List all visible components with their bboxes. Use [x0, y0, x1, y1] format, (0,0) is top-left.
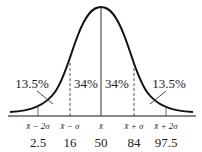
axis-value-16: 16	[64, 135, 78, 150]
axis-symbol-mean: x̄	[98, 121, 104, 131]
axis-value-97-5: 97.5	[155, 135, 178, 150]
axis-value-50: 50	[95, 135, 108, 150]
left-center-label: 34%	[74, 76, 98, 91]
right-center-label: 34%	[105, 76, 129, 91]
left-tail-label: 13.5%	[15, 76, 49, 91]
bell-curve-diagram: 13.5% 34% 34% 13.5% x̄ − 2σ x̄ − σ x̄ x̄…	[0, 0, 202, 152]
axis-symbol-minus-2sigma: x̄ − 2σ	[25, 121, 50, 131]
axis-value-2-5: 2.5	[30, 135, 46, 150]
right-tail-label: 13.5%	[152, 76, 186, 91]
axis-symbol-minus-sigma: x̄ − σ	[59, 121, 80, 131]
axis-symbol-plus-sigma: x̄ + σ	[123, 121, 144, 131]
axis-value-84: 84	[128, 135, 142, 150]
axis-symbol-plus-2sigma: x̄ + 2σ	[153, 121, 178, 131]
